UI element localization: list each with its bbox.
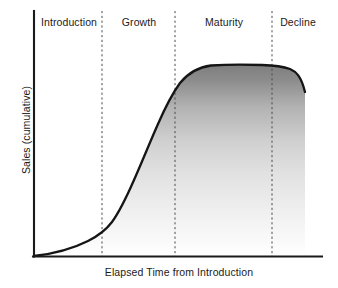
chart-plot-area <box>0 0 338 288</box>
product-lifecycle-chart: Introduction Growth Maturity Decline Ela… <box>0 0 338 288</box>
x-axis-title: Elapsed Time from Introduction <box>34 266 324 278</box>
y-axis-title: Sales (cumulative) <box>20 55 32 205</box>
phase-label-decline: Decline <box>273 16 323 28</box>
phase-label-introduction: Introduction <box>37 16 101 28</box>
sales-area-fill <box>34 65 305 256</box>
phase-label-maturity: Maturity <box>177 16 271 28</box>
phase-label-growth: Growth <box>104 16 174 28</box>
